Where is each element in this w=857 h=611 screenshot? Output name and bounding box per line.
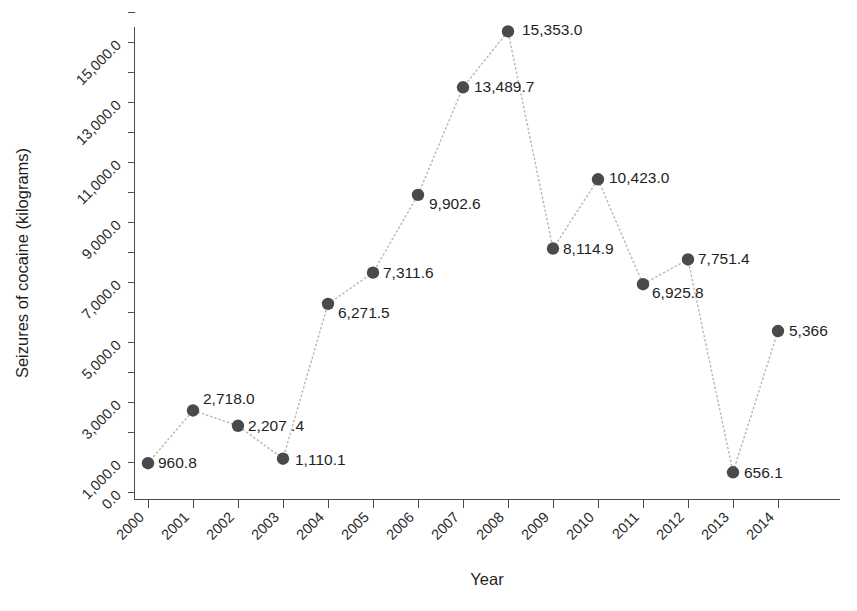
data-point-label: 8,114.9 — [563, 240, 614, 257]
x-tick-label: 2006 — [383, 509, 417, 543]
data-point — [367, 266, 379, 278]
x-tick-label: 2002 — [203, 509, 237, 543]
x-tick-label: 2000 — [113, 509, 147, 543]
x-tick-label: 2010 — [563, 509, 597, 543]
x-axis-tick-labels: 2000200120022003200420052006200720082009… — [113, 509, 777, 543]
y-tick-label: 7,000.0 — [79, 277, 125, 323]
data-point-label: 13,489.7 — [474, 78, 534, 95]
x-tick-label: 2012 — [653, 509, 687, 543]
data-point-label: 7,751.4 — [698, 250, 750, 267]
x-tick-label: 2011 — [609, 509, 642, 542]
data-point — [592, 173, 604, 185]
data-point-group — [142, 25, 784, 478]
y-axis-tick-labels: 0.01,000.03,000.05,000.07,000.09,000.011… — [73, 37, 124, 513]
data-point — [772, 325, 784, 337]
data-point-label: 7,311.6 — [383, 264, 434, 281]
x-tick-label: 2007 — [428, 509, 462, 543]
data-point — [187, 404, 199, 416]
y-axis-title: Seizures of cocaine (kilograms) — [13, 148, 31, 378]
data-point-label: 656.1 — [744, 464, 783, 481]
y-tick-label: 15,000.0 — [73, 37, 124, 88]
data-point — [232, 420, 244, 432]
x-tick-label: 2009 — [518, 509, 552, 543]
y-tick-label: 13,000.0 — [73, 97, 124, 148]
data-point-label: 6,925.8 — [652, 284, 704, 301]
data-point-label: 5,366 — [789, 322, 828, 339]
cocaine-seizures-chart: 0.01,000.03,000.05,000.07,000.09,000.011… — [0, 0, 857, 611]
data-point-label: 2,207 .4 — [248, 417, 304, 434]
data-point — [142, 457, 154, 469]
data-point-label: 2,718.0 — [203, 390, 255, 407]
data-point — [322, 298, 334, 310]
data-point — [637, 278, 649, 290]
y-tick-label: 5,000.0 — [79, 337, 125, 383]
y-tick-label: 0.0 — [99, 487, 125, 513]
data-point — [547, 242, 559, 254]
data-point-label: 9,902.6 — [429, 195, 481, 212]
data-point — [727, 466, 739, 478]
data-point — [502, 25, 514, 37]
x-axis-title: Year — [470, 570, 504, 588]
y-tick-label: 3,000.0 — [79, 397, 125, 443]
x-axis-ticks — [149, 500, 779, 508]
y-tick-label: 11,000.0 — [74, 157, 124, 207]
x-tick-label: 2003 — [248, 509, 282, 543]
data-label-group: 960.82,718.02,207 .41,110.16,271.57,311.… — [158, 21, 828, 481]
x-tick-label: 2008 — [473, 509, 507, 543]
data-point — [277, 452, 289, 464]
data-point-label: 15,353.0 — [522, 21, 583, 38]
x-tick-label: 2004 — [293, 509, 327, 543]
data-point — [457, 81, 469, 93]
y-tick-label: 9,000.0 — [79, 217, 125, 263]
data-point — [412, 189, 424, 201]
data-point-label: 1,110.1 — [295, 451, 346, 468]
x-tick-label: 2014 — [743, 509, 777, 543]
data-point — [682, 253, 694, 265]
data-point-label: 10,423.0 — [609, 169, 670, 186]
data-point-label: 960.8 — [158, 454, 197, 471]
chart-canvas: 0.01,000.03,000.05,000.07,000.09,000.011… — [0, 0, 857, 611]
x-tick-label: 2001 — [158, 509, 192, 543]
data-point-label: 6,271.5 — [338, 304, 390, 321]
x-tick-label: 2013 — [698, 509, 732, 543]
x-tick-label: 2005 — [338, 509, 372, 543]
